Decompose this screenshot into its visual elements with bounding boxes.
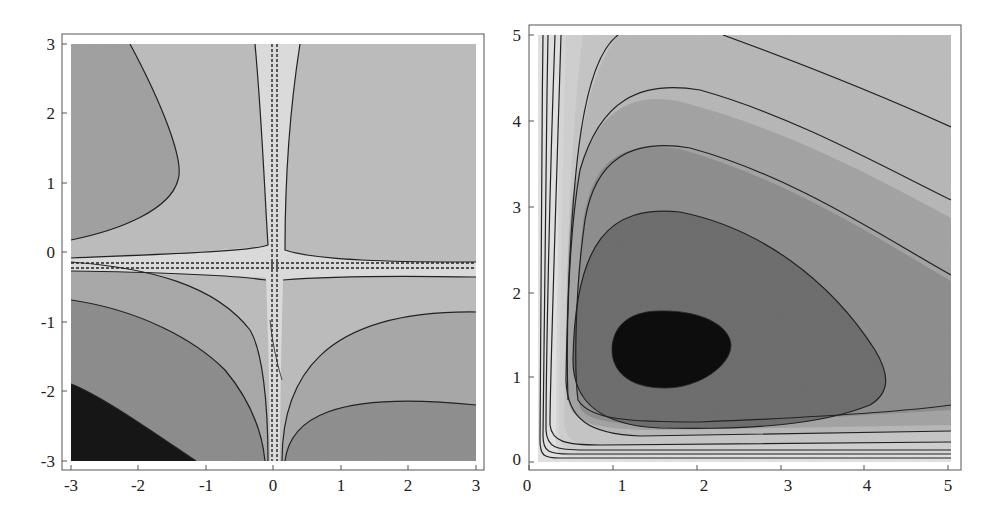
x-tick-label: -2 <box>131 476 145 495</box>
x-tick-label: 0 <box>523 476 532 495</box>
right-contour-plot: 0 1 2 3 4 5 5 4 3 2 1 0 <box>513 25 962 495</box>
left-contour-plot: -3 -2 -1 0 1 2 3 3 2 1 0 -1 -2 -3 <box>41 34 484 495</box>
figure: -3 -2 -1 0 1 2 3 3 2 1 0 -1 -2 -3 <box>0 0 997 513</box>
x-tick-label: 1 <box>618 476 627 495</box>
y-tick-label: -2 <box>41 382 55 401</box>
right-plot-fill <box>538 35 951 462</box>
x-tick-label: 2 <box>700 476 709 495</box>
y-tick-label: 0 <box>513 450 522 469</box>
left-plot-fill <box>71 44 476 461</box>
y-tick-label: 1 <box>47 174 56 193</box>
y-tick-label: 3 <box>47 35 56 54</box>
y-tick-label: -1 <box>41 313 55 332</box>
y-tick-label: 5 <box>513 26 522 45</box>
right-x-tick-labels: 0 1 2 3 4 5 <box>523 476 953 495</box>
x-tick-label: 3 <box>472 476 481 495</box>
left-y-tick-labels: 3 2 1 0 -1 -2 -3 <box>41 35 55 471</box>
x-tick-label: 2 <box>404 476 413 495</box>
x-tick-label: -1 <box>199 476 213 495</box>
y-tick-label: 2 <box>47 104 56 123</box>
y-tick-label: 2 <box>513 284 522 303</box>
right-y-tick-labels: 5 4 3 2 1 0 <box>513 26 522 469</box>
y-tick-label: 4 <box>513 112 522 131</box>
y-tick-label: 3 <box>513 198 522 217</box>
y-tick-label: 1 <box>513 368 522 387</box>
x-tick-label: 3 <box>784 476 793 495</box>
x-tick-label: 4 <box>863 476 872 495</box>
y-tick-label: -3 <box>41 452 55 471</box>
x-tick-label: -3 <box>64 476 78 495</box>
y-tick-label: 0 <box>47 243 56 262</box>
x-tick-label: 0 <box>269 476 278 495</box>
x-tick-label: 5 <box>944 476 953 495</box>
x-tick-label: 1 <box>337 476 346 495</box>
left-x-tick-labels: -3 -2 -1 0 1 2 3 <box>64 476 480 495</box>
